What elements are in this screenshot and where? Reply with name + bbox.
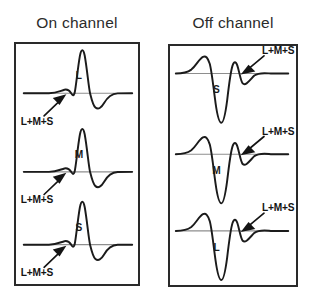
- cone-label-off-m: M: [212, 165, 220, 176]
- annotation-arrow-off-s: [241, 56, 264, 75]
- waveform-off-s: [176, 56, 288, 122]
- arrow-head-on-m: [53, 173, 67, 184]
- sum-label-on-s: L+M+S: [21, 267, 54, 278]
- cone-label-on-m: M: [75, 149, 83, 160]
- cone-label-off-l: L: [213, 242, 219, 253]
- arrow-head-on-s: [53, 246, 67, 257]
- trace-off-l: L L+M+S: [176, 202, 295, 280]
- cone-label-off-s: S: [213, 84, 220, 95]
- annotation-arrow-off-l: [241, 213, 264, 232]
- sum-label-on-m: L+M+S: [21, 194, 54, 205]
- annotation-arrow-off-m: [241, 136, 264, 155]
- sum-label-off-l: L+M+S: [262, 202, 295, 213]
- sum-label-off-s: L+M+S: [262, 45, 295, 56]
- panel-on-channel: L L+M+S M L+M+S: [14, 42, 140, 286]
- on-channel-traces: L L+M+S M L+M+S: [16, 44, 138, 284]
- waveform-off-m: [176, 137, 288, 203]
- trace-on-s: S L+M+S: [21, 202, 132, 278]
- trace-off-m: M L+M+S: [176, 125, 295, 203]
- annotation-arrow-on-s: [44, 246, 66, 268]
- waveform-off-l: [176, 214, 288, 280]
- annotation-arrow-on-m: [44, 173, 66, 195]
- sum-label-off-m: L+M+S: [262, 125, 295, 136]
- panel-off-channel: S L+M+S M L+M+S: [168, 44, 298, 287]
- trace-on-m: M L+M+S: [21, 129, 132, 205]
- panel-title-on-channel: On channel: [14, 14, 140, 32]
- cone-label-on-s: S: [76, 222, 83, 233]
- arrow-head-on-l: [53, 94, 67, 105]
- trace-on-l: L L+M+S: [21, 50, 132, 126]
- cone-label-on-l: L: [76, 70, 82, 81]
- sum-label-on-l: L+M+S: [21, 116, 54, 127]
- trace-off-s: S L+M+S: [176, 45, 295, 123]
- panel-title-off-channel: Off channel: [168, 14, 298, 32]
- off-channel-traces: S L+M+S M L+M+S: [170, 46, 296, 285]
- figure-root: On channel Off channel L L+M+S M: [0, 0, 314, 298]
- annotation-arrow-on-l: [44, 94, 66, 116]
